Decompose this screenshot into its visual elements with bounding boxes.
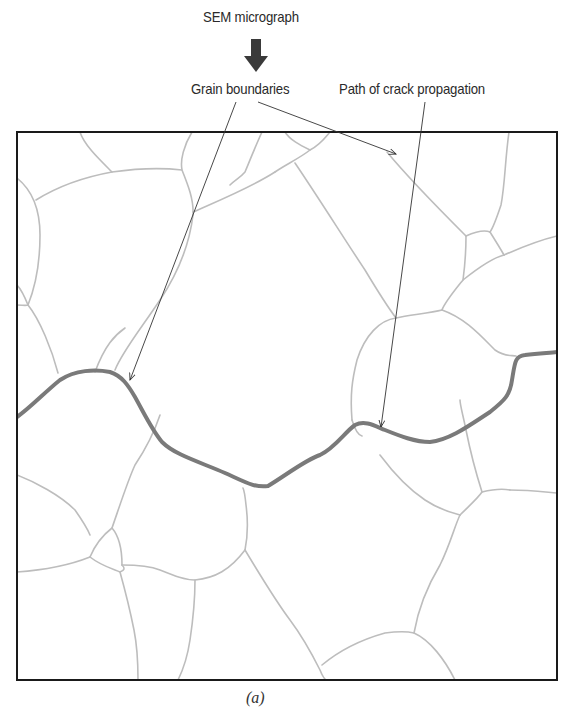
grain-boundary-leader-1 [130, 102, 236, 380]
grain-boundary-leader-2 [258, 102, 396, 154]
grain-boundaries [17, 132, 557, 680]
figure-caption: (a) [246, 689, 265, 707]
micrograph-diagram [0, 0, 581, 722]
micrograph-frame [17, 132, 557, 680]
down-arrow-icon [244, 39, 268, 72]
crack-path [17, 352, 557, 486]
grain-boundaries-label: Grain boundaries [191, 80, 289, 97]
leader-lines [130, 102, 425, 427]
crack-path-label: Path of crack propagation [339, 80, 485, 97]
title-label: SEM micrograph [203, 8, 299, 25]
